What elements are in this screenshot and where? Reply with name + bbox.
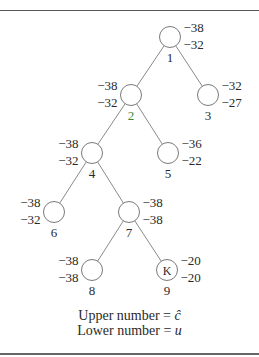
node-lower-value: −38 (143, 212, 163, 227)
node-lower-value: −32 (58, 153, 78, 168)
node-circle (158, 143, 179, 164)
node-number-label: 7 (126, 225, 133, 240)
node-lower-value: −32 (20, 212, 40, 227)
node-upper-value: −38 (20, 195, 40, 210)
tree-node-5: 5−36−22 (158, 136, 203, 181)
node-circle (44, 202, 65, 223)
node-number-label: 2 (128, 108, 135, 123)
edge-4-7 (98, 162, 124, 203)
legend-upper-text: Upper number = (78, 308, 174, 323)
legend-upper-symbol: ĉ (174, 308, 180, 323)
node-lower-value: −38 (58, 270, 78, 285)
tree-node-3: 3−32−27 (198, 78, 243, 123)
node-circle (82, 143, 103, 164)
tree-node-2: 2−38−32 (97, 78, 141, 123)
node-upper-value: −38 (58, 136, 78, 151)
tree-node-8: 8−38−38 (58, 253, 102, 298)
node-number-label: 3 (205, 108, 212, 123)
edge-7-8 (98, 221, 124, 261)
node-upper-value: −20 (181, 253, 201, 268)
nodes-layer: 1−38−322−38−323−32−274−38−325−36−226−38−… (20, 20, 242, 298)
node-circle (119, 202, 140, 223)
node-marker-k: K (163, 264, 172, 278)
legend-lower-text: Lower number = (77, 323, 175, 338)
node-circle (121, 85, 142, 106)
node-circle (198, 85, 219, 106)
tree-node-1: 1−38−32 (160, 20, 204, 65)
node-circle (160, 27, 181, 48)
edge-4-6 (60, 162, 87, 203)
node-lower-value: −27 (222, 95, 243, 110)
node-upper-value: −38 (97, 78, 117, 93)
node-upper-value: −38 (58, 253, 78, 268)
legend-upper-line: Upper number = ĉ (0, 308, 259, 323)
tree-node-9: K9−20−20 (157, 253, 201, 298)
edge-1-2 (137, 46, 164, 87)
tree-node-6: 6−38−32 (20, 195, 64, 240)
edge-2-5 (137, 104, 163, 144)
tree-node-7: 7−38−38 (119, 195, 163, 240)
node-lower-value: −22 (182, 153, 202, 168)
branch-and-bound-tree: 1−38−322−38−323−32−274−38−325−36−226−38−… (0, 0, 259, 357)
node-number-label: 8 (89, 283, 96, 298)
node-number-label: 6 (51, 225, 58, 240)
legend-lower-symbol: u (175, 323, 182, 338)
node-upper-value: −32 (222, 78, 242, 93)
node-lower-value: −20 (181, 270, 201, 285)
node-upper-value: −38 (143, 195, 163, 210)
node-number-label: 9 (164, 283, 171, 298)
node-lower-value: −32 (184, 37, 204, 52)
node-number-label: 4 (89, 166, 96, 181)
tree-node-4: 4−38−32 (58, 136, 102, 181)
node-number-label: 5 (165, 166, 172, 181)
legend-lower-line: Lower number = u (0, 323, 259, 338)
node-number-label: 1 (167, 50, 174, 65)
node-circle (82, 260, 103, 281)
node-lower-value: −32 (97, 95, 117, 110)
node-upper-value: −38 (184, 20, 204, 35)
bottom-border-line (0, 353, 259, 355)
node-upper-value: −36 (182, 136, 203, 151)
